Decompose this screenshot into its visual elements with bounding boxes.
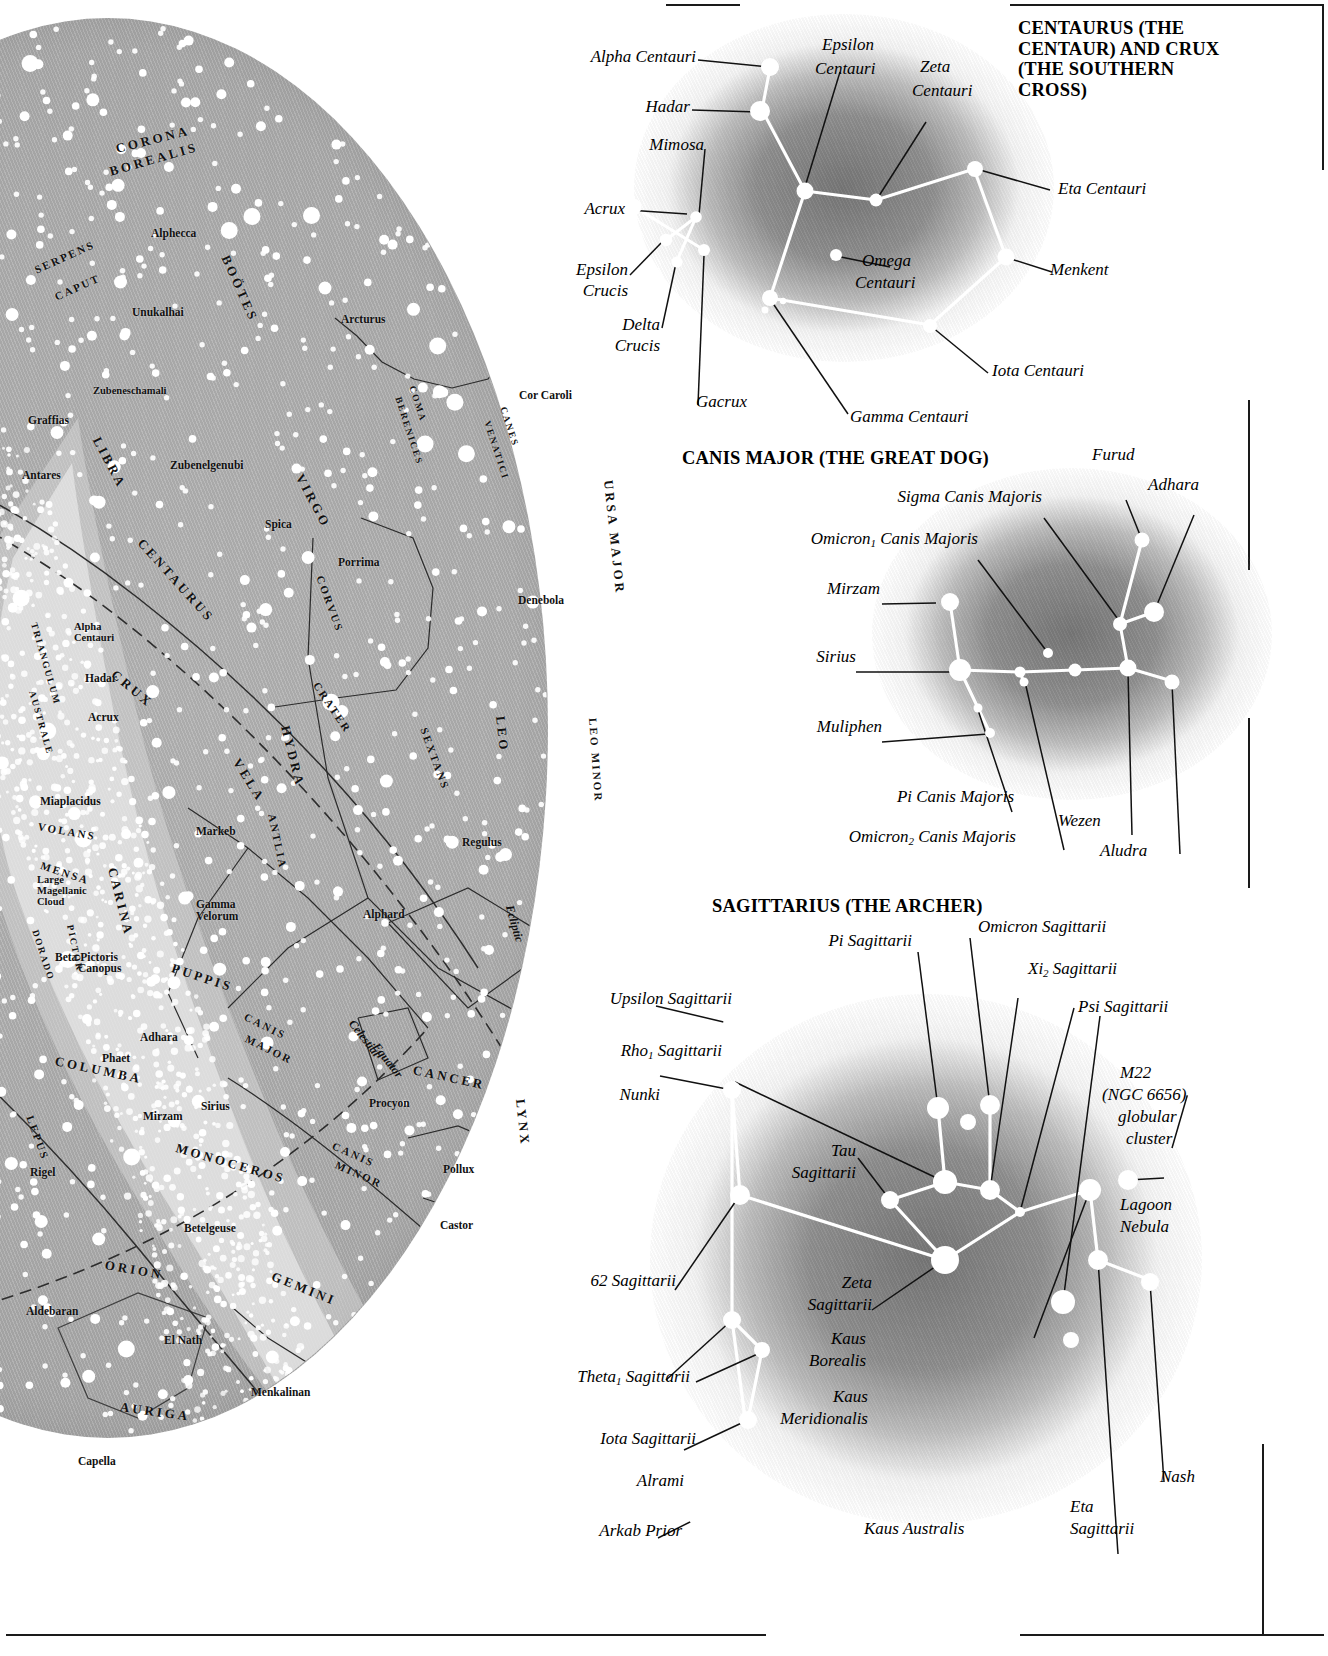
label-zeta-centauri-line2: Centauri bbox=[912, 82, 972, 101]
label-aludra: Aludra bbox=[1100, 842, 1147, 861]
label-delta-crucis-line2: Crucis bbox=[552, 337, 660, 356]
skymap-star-label: Miaplacidus bbox=[40, 795, 101, 807]
skymap-star-label: Zubeneschamali bbox=[93, 385, 167, 396]
label-eta-sagittarii-line1: Eta bbox=[1070, 1498, 1094, 1517]
rho1-rest: Sagittarii bbox=[654, 1041, 722, 1060]
label-epsilon-centauri-line1: Epsilon bbox=[822, 36, 874, 55]
skymap-star-label: Alpha Centauri bbox=[74, 621, 140, 643]
omicron2-main: Omicron bbox=[849, 827, 909, 846]
label-acrux: Acrux bbox=[520, 200, 625, 219]
panel-centaurus-crux: CENTAURUS (THE CENTAUR) AND CRUX (THE SO… bbox=[600, 10, 1328, 430]
skymap-star-label: Aldebaran bbox=[26, 1305, 78, 1317]
label-pi-canis-majoris: Pi Canis Majoris bbox=[784, 788, 1014, 807]
label-kaus-meridionalis-line1: Kaus bbox=[732, 1388, 868, 1407]
skymap-star-label: Rigel bbox=[30, 1166, 56, 1178]
label-lagoon-nebula-line2: Nebula bbox=[1120, 1218, 1169, 1237]
label-tau-sagittarii-line2: Sagittarii bbox=[672, 1164, 856, 1183]
label-zeta-sagittarii-line1: Zeta bbox=[728, 1274, 872, 1293]
label-epsilon-crucis-line2: Crucis bbox=[528, 282, 628, 301]
label-eta-centauri: Eta Centauri bbox=[1058, 180, 1146, 199]
rule-top-right bbox=[1010, 4, 1324, 6]
omicron1-main: Omicron bbox=[811, 529, 871, 548]
skymap-star-label: Procyon bbox=[369, 1097, 410, 1109]
label-zeta-sagittarii-line2: Sagittarii bbox=[700, 1296, 872, 1315]
label-nunki: Nunki bbox=[554, 1086, 660, 1105]
label-omicron2-canis-majoris: Omicron2 Canis Majoris bbox=[726, 828, 1016, 847]
label-adhara: Adhara bbox=[1148, 476, 1199, 495]
label-omega-centauri-line1: Omega bbox=[862, 252, 911, 271]
theta1-rest: Sagittarii bbox=[622, 1367, 690, 1386]
label-rho1-sagittarii: Rho1 Sagittarii bbox=[534, 1042, 722, 1061]
omicron2-subscript: 2 bbox=[908, 835, 914, 847]
skymap-star-label: Phaet bbox=[102, 1052, 130, 1064]
label-m22-line1: M22 bbox=[1120, 1064, 1151, 1083]
skymap-star-label: Porrima bbox=[338, 556, 380, 568]
label-lagoon-nebula-line1: Lagoon bbox=[1120, 1196, 1172, 1215]
skymap-star-label: Mirzam bbox=[143, 1110, 183, 1122]
skymap-star-label: Pollux bbox=[443, 1163, 474, 1175]
sagittarius-panel-title: SAGITTARIUS (THE ARCHER) bbox=[712, 896, 1132, 917]
skymap-star-label: Beta Pictoris bbox=[55, 951, 121, 963]
label-gamma-centauri: Gamma Centauri bbox=[850, 408, 969, 427]
skymap-star-label: Gamma Velorum bbox=[196, 898, 262, 922]
panel-sagittarius: SAGITTARIUS (THE ARCHER) Pi Sagittarii O… bbox=[500, 890, 1328, 1630]
skymap-star-label: Markeb bbox=[196, 825, 236, 837]
label-zeta-centauri-line1: Zeta bbox=[920, 58, 950, 77]
centaurus-leader-lines bbox=[628, 60, 1052, 414]
label-nash: Nash bbox=[1160, 1468, 1195, 1487]
rho1-main: Rho bbox=[621, 1041, 648, 1060]
skymap-star-label: Cor Caroli bbox=[519, 389, 572, 401]
skymap-star-label: Antares bbox=[22, 469, 61, 481]
xi2-main: Xi bbox=[1028, 959, 1043, 978]
skymap-star-label: Unukalhai bbox=[132, 306, 184, 318]
skymap-star-label: Betelgeuse bbox=[184, 1222, 236, 1234]
label-alpha-centauri: Alpha Centauri bbox=[522, 48, 696, 67]
label-menkent: Menkent bbox=[1050, 261, 1109, 280]
skymap-star-label: El Nath bbox=[164, 1334, 202, 1346]
label-mimosa: Mimosa bbox=[570, 136, 704, 155]
canis-major-stick-lines bbox=[950, 540, 1172, 733]
rule-bottom-right bbox=[1020, 1634, 1324, 1636]
label-theta1-sagittarii: Theta1 Sagittarii bbox=[504, 1368, 690, 1387]
canis-major-panel-title: CANIS MAJOR (THE GREAT DOG) bbox=[682, 448, 1082, 469]
skymap-star-label: Acrux bbox=[88, 711, 119, 723]
label-omega-centauri-line2: Centauri bbox=[855, 274, 915, 293]
skymap-constellation-label: LEO MINOR bbox=[587, 718, 605, 804]
rule-top-left bbox=[666, 4, 740, 6]
label-m22-line2: (NGC 6656) bbox=[1102, 1086, 1187, 1105]
label-eta-sagittarii-line2: Sagittarii bbox=[1070, 1520, 1134, 1539]
canis-major-stars bbox=[941, 533, 1180, 739]
omicron1-rest: Canis Majoris bbox=[876, 529, 978, 548]
label-furud: Furud bbox=[1092, 446, 1135, 465]
label-muliphen: Muliphen bbox=[724, 718, 882, 737]
label-hadar: Hadar bbox=[582, 98, 690, 117]
skymap-star-label: Sirius bbox=[201, 1100, 230, 1112]
omicron2-rest: Canis Majoris bbox=[914, 827, 1016, 846]
skymap-star-label: Capella bbox=[78, 1455, 116, 1467]
centaurus-panel-title: CENTAURUS (THE CENTAUR) AND CRUX (THE SO… bbox=[1018, 18, 1240, 101]
label-m22-line3: globular bbox=[1118, 1108, 1177, 1127]
skymap-star-label: Alphard bbox=[363, 908, 405, 920]
label-upsilon-sagittarii: Upsilon Sagittarii bbox=[540, 990, 732, 1009]
skymap-star-label: Graffias bbox=[28, 414, 69, 426]
label-xi2-sagittarii: Xi2 Sagittarii bbox=[1028, 960, 1117, 979]
skymap-star-label: Alphecca bbox=[151, 227, 196, 239]
label-m22-line4: cluster bbox=[1126, 1130, 1172, 1149]
skymap-star-label: Zubenelgenubi bbox=[170, 459, 244, 471]
label-omicron1-canis-majoris: Omicron1 Canis Majoris bbox=[680, 530, 978, 549]
skymap-star-label: Menkalinan bbox=[251, 1386, 310, 1398]
skymap-star-label: Arcturus bbox=[341, 313, 386, 325]
label-sigma-canis-majoris: Sigma Canis Majoris bbox=[770, 488, 1042, 507]
label-kaus-borealis-line2: Borealis bbox=[720, 1352, 866, 1371]
theta1-main: Theta bbox=[577, 1367, 616, 1386]
skymap-star-label: Denebola bbox=[518, 594, 564, 606]
label-omicron-sagittarii: Omicron Sagittarii bbox=[978, 918, 1106, 937]
label-alrami: Alrami bbox=[568, 1472, 684, 1491]
xi2-rest: Sagittarii bbox=[1049, 959, 1117, 978]
label-kaus-australis: Kaus Australis bbox=[864, 1520, 964, 1539]
star-atlas-page: AlpheccaUnukalhaiArcturusZubeneschamaliG… bbox=[0, 0, 1328, 1656]
label-62-sagittarii: 62 Sagittarii bbox=[508, 1272, 676, 1291]
label-mirzam: Mirzam bbox=[740, 580, 880, 599]
skymap-star-label: Canopus bbox=[78, 962, 121, 974]
rho1-subscript: 1 bbox=[648, 1049, 654, 1061]
